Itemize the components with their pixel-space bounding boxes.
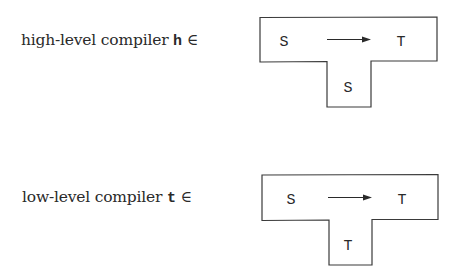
arrow-icon xyxy=(327,37,371,43)
target-language: T xyxy=(396,34,405,51)
implementation-language: T xyxy=(343,238,352,255)
element-of-symbol: ∈ xyxy=(181,188,192,206)
arrow-icon xyxy=(328,195,372,201)
implementation-language: S xyxy=(343,80,352,97)
t-diagram-high-level: S T S xyxy=(260,17,437,107)
source-language: S xyxy=(279,34,288,51)
low-level-compiler-label: low-level compiler t ∈ xyxy=(22,188,192,207)
t-diagram-low-level: S T T xyxy=(262,175,438,266)
t-diagrams-canvas: S T S S T T xyxy=(0,0,465,274)
label-text: low-level compiler xyxy=(22,188,162,206)
source-language: S xyxy=(286,192,295,209)
target-language: T xyxy=(397,192,406,209)
compiler-variable: t xyxy=(167,190,176,207)
